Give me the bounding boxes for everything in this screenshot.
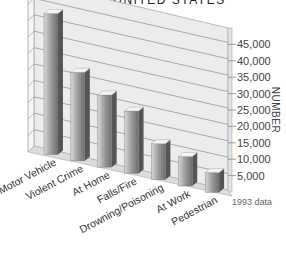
- bar-at-home: [98, 91, 117, 167]
- y-axis-label: NUMBER: [270, 87, 281, 133]
- bar-drowning-poisoning: [151, 140, 170, 180]
- svg-text:40,000: 40,000: [237, 55, 271, 67]
- data-year-note: 1993 data: [232, 197, 272, 207]
- bar-at-work: [178, 152, 197, 186]
- bar-pedestrian: [205, 169, 224, 193]
- svg-text:30,000: 30,000: [237, 88, 271, 100]
- svg-text:25,000: 25,000: [237, 104, 271, 116]
- bar-violent-crime: [71, 68, 90, 161]
- bar-motor-vehicle: [44, 10, 63, 155]
- svg-text:5,000: 5,000: [237, 170, 265, 182]
- svg-text:35,000: 35,000: [237, 71, 271, 83]
- y-axis-ticks: 5,00010,00015,00020,00025,00030,00035,00…: [228, 38, 271, 181]
- bar-falls-fire: [125, 107, 144, 173]
- svg-text:45,000: 45,000: [237, 38, 271, 50]
- svg-text:20,000: 20,000: [237, 120, 271, 132]
- svg-text:10,000: 10,000: [237, 153, 271, 165]
- svg-text:15,000: 15,000: [237, 137, 271, 149]
- bar-chart-3d: 5,00010,00015,00020,00025,00030,00035,00…: [0, 0, 286, 260]
